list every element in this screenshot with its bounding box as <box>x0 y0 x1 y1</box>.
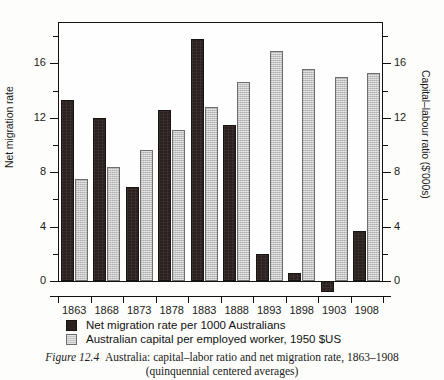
axis-tick-label: 8 <box>394 165 400 177</box>
x-axis-label: 1873 <box>122 304 156 316</box>
bar-1903-migration <box>321 281 334 292</box>
x-axis-tick <box>156 296 157 303</box>
caption-line-2: (quinquennial centered averages) <box>0 364 444 378</box>
bar-1868-capital <box>107 167 120 281</box>
x-axis-tick <box>253 296 254 303</box>
bar-1873-migration <box>126 187 139 281</box>
axis-tick <box>50 281 58 282</box>
figure-container: Net migration rate Capital–labour ratio … <box>0 0 444 380</box>
bar-1888-migration <box>223 125 236 281</box>
axis-tick <box>53 36 58 37</box>
axis-tick <box>53 145 58 146</box>
bar-1868-migration <box>93 118 106 281</box>
x-axis-tick <box>188 296 189 303</box>
x-axis-tick <box>383 296 384 303</box>
bar-1883-migration <box>191 39 204 281</box>
legend-swatch-dark <box>66 320 77 331</box>
x-axis-label: 1903 <box>317 304 351 316</box>
bar-1903-capital <box>335 77 348 281</box>
axis-tick-label: 12 <box>34 111 46 123</box>
axis-tick <box>383 63 391 64</box>
axis-tick <box>383 227 391 228</box>
x-axis-label: 1878 <box>155 304 189 316</box>
bar-1863-capital <box>75 179 88 281</box>
bar-1898-capital <box>302 69 315 281</box>
axis-tick-label: 0 <box>40 274 46 286</box>
figure-caption: Figure 12.4 Australia: capital–labor rat… <box>0 350 444 378</box>
axis-tick <box>383 199 388 200</box>
legend-swatch-light <box>66 334 77 345</box>
axis-tick-label: 8 <box>40 165 46 177</box>
y-axis-label-right: Capital–labour ratio ($'000s) <box>420 70 432 199</box>
axis-tick-label: 12 <box>394 111 406 123</box>
bar-1878-capital <box>172 130 185 281</box>
axis-tick <box>383 172 391 173</box>
x-axis-tick <box>221 296 222 303</box>
x-axis-tick <box>123 296 124 303</box>
x-axis-label: 1883 <box>187 304 221 316</box>
y-axis-label-left: Net migration rate <box>3 86 15 168</box>
axis-tick <box>53 254 58 255</box>
bar-1908-migration <box>353 231 366 281</box>
x-axis-label: 1898 <box>285 304 319 316</box>
x-axis-label: 1908 <box>350 304 384 316</box>
x-axis-tick <box>351 296 352 303</box>
x-axis-label: 1863 <box>57 304 91 316</box>
bar-1878-migration <box>158 110 171 281</box>
bar-1893-migration <box>256 254 269 281</box>
axis-tick <box>383 254 388 255</box>
x-axis-tick <box>58 296 59 303</box>
axis-tick-label: 4 <box>40 220 46 232</box>
bar-1893-capital <box>270 51 283 281</box>
legend-item: Net migration rate per 1000 Australians <box>66 318 341 332</box>
x-axis-tick <box>91 296 92 303</box>
chart-legend: Net migration rate per 1000 Australians … <box>66 318 341 346</box>
axis-tick-label: 0 <box>394 274 400 286</box>
x-axis-tick <box>286 296 287 303</box>
axis-tick <box>383 36 388 37</box>
bar-1908-capital <box>367 73 380 281</box>
axis-tick <box>383 145 388 146</box>
axis-tick <box>383 281 391 282</box>
axis-tick-label: 4 <box>394 220 400 232</box>
axis-tick-label: 16 <box>394 56 406 68</box>
x-axis-label: 1868 <box>90 304 124 316</box>
x-axis-tick <box>318 296 319 303</box>
caption-line-1: Australia: capital–labor ratio and net m… <box>105 351 399 363</box>
zero-baseline <box>58 281 383 282</box>
axis-tick <box>50 227 58 228</box>
axis-tick <box>50 172 58 173</box>
legend-label: Australian capital per employed worker, … <box>86 333 341 345</box>
bar-1888-capital <box>237 82 250 281</box>
bar-1883-capital <box>205 107 218 281</box>
axis-tick <box>53 199 58 200</box>
bar-1873-capital <box>140 150 153 281</box>
axis-tick <box>383 91 388 92</box>
axis-tick <box>383 118 391 119</box>
x-axis-label: 1893 <box>252 304 286 316</box>
legend-item: Australian capital per employed worker, … <box>66 332 341 346</box>
axis-tick-label: 16 <box>34 56 46 68</box>
axis-tick <box>50 63 58 64</box>
figure-number: Figure 12.4 <box>45 351 99 363</box>
legend-label: Net migration rate per 1000 Australians <box>86 319 285 331</box>
x-axis-label: 1888 <box>220 304 254 316</box>
axis-tick <box>53 91 58 92</box>
axis-tick <box>50 118 58 119</box>
bar-1898-migration <box>288 273 301 281</box>
bar-1863-migration <box>61 100 74 281</box>
